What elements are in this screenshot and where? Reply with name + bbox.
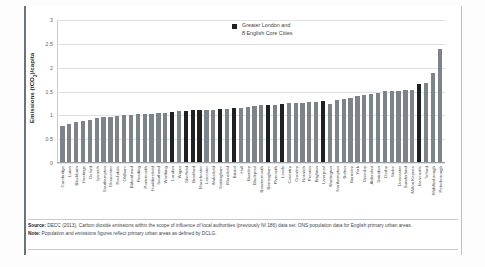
bar-item — [340, 20, 347, 162]
bar — [184, 111, 188, 162]
bar — [60, 126, 64, 162]
bar-item — [169, 20, 176, 162]
bar-item — [354, 20, 361, 162]
x-axis-label-text: Bradford — [190, 166, 195, 183]
x-axis-label: Warrington — [327, 165, 334, 217]
bar-item — [279, 20, 286, 162]
bar — [115, 116, 119, 162]
x-axis-label: Preston — [306, 165, 313, 217]
x-axis-label-text: Norwich — [300, 166, 305, 182]
x-axis-label-text: Brighton — [314, 166, 319, 182]
bar-item — [429, 20, 436, 162]
bar — [396, 91, 400, 162]
x-axis-label: Crawley — [292, 165, 299, 217]
bar-item — [320, 20, 327, 162]
bar-item — [86, 20, 93, 162]
y-axis-tick-label: 0 — [23, 160, 56, 166]
bar — [335, 100, 339, 162]
x-axis-label: Telford — [423, 165, 430, 217]
legend-swatch-core-cities — [232, 24, 237, 29]
bar — [307, 102, 311, 162]
bar-item — [395, 20, 402, 162]
bar — [225, 109, 229, 162]
x-axis-label-text: Newcastle — [417, 166, 422, 186]
y-axis-tick-label: 0.5 — [23, 136, 56, 142]
bar — [211, 110, 215, 162]
x-axis-label: Aldershot — [368, 165, 375, 217]
source-label: Source: — [28, 223, 46, 228]
bar — [348, 98, 352, 162]
bar-item — [368, 20, 375, 162]
bar — [156, 113, 160, 162]
x-axis-label-text: Derby — [382, 166, 387, 178]
bar-item — [299, 20, 306, 162]
x-axis-label: Rochdale — [114, 165, 121, 217]
x-axis-label: Middlesbrough — [429, 165, 436, 217]
x-axis-label: Liverpool — [320, 165, 327, 217]
bar — [300, 103, 304, 162]
legend: Greater London and 8 English Core Cities — [232, 22, 292, 37]
x-axis-label: Nottingham — [217, 165, 224, 217]
x-axis-label-text: Bournemouth — [259, 166, 264, 192]
bar — [204, 110, 208, 162]
x-axis-label: Luton — [66, 165, 73, 217]
x-axis-label: Blackpool — [251, 165, 258, 217]
bar — [163, 113, 167, 162]
bar-item — [402, 20, 409, 162]
x-axis-label-text: Warrington — [327, 166, 332, 187]
footnote-bottom-rule — [28, 249, 458, 250]
x-axis-label: Barnsley — [347, 165, 354, 217]
x-axis-label: Southampton — [100, 165, 107, 217]
bar — [266, 105, 270, 162]
x-axis-labels: CambridgeLutonBlackburnHastingsOxfordIps… — [57, 165, 445, 217]
x-axis-label-text: Wakefield — [211, 166, 216, 185]
bar — [95, 118, 99, 162]
x-axis-label-text: Barnsley — [348, 166, 353, 183]
x-axis-label: Newcastle — [416, 165, 423, 217]
x-axis-label-text: Rochdale — [115, 166, 120, 185]
x-axis-label-text: Leicester — [204, 166, 209, 184]
bar-item — [189, 20, 196, 162]
bar-item — [423, 20, 430, 162]
x-axis-label-text: Middlesbrough — [430, 166, 435, 195]
x-axis-label: Huddersfield — [148, 165, 155, 217]
bar — [424, 83, 428, 162]
bar-item — [230, 20, 237, 162]
bar — [239, 108, 243, 162]
bar-item — [244, 20, 251, 162]
x-axis-label: Grimsby — [361, 165, 368, 217]
x-axis-label-text: Plymouth — [273, 166, 278, 184]
x-axis-label: Burnley — [244, 165, 251, 217]
x-axis-label: Mansfield — [224, 165, 231, 217]
bar-item — [388, 20, 395, 162]
x-axis-label: Gloucester — [107, 165, 114, 217]
bar-item — [176, 20, 183, 162]
x-axis-label-text: Ipswich — [94, 166, 99, 181]
y-axis-tick-label: 1 — [23, 112, 56, 118]
bar-item — [292, 20, 299, 162]
bar — [369, 94, 373, 162]
x-axis-label-text: Sheffield — [183, 166, 188, 183]
x-axis-label-text: Reading — [135, 166, 140, 182]
bar-item — [100, 20, 107, 162]
x-axis-label-text: Gloucester — [108, 166, 113, 187]
bar — [81, 121, 85, 162]
x-axis-label-text: Grimsby — [362, 166, 367, 182]
x-axis-label: Sunderland — [402, 165, 409, 217]
x-axis-label: Wakefield — [210, 165, 217, 217]
x-axis-label: Leicester — [203, 165, 210, 217]
bar-item — [265, 20, 272, 162]
x-axis-label-text: Aldershot — [369, 166, 374, 185]
x-axis-label: Birmingham — [265, 165, 272, 217]
bar — [273, 105, 277, 162]
bar — [122, 115, 126, 162]
x-axis-label-text: Leeds — [279, 166, 284, 178]
x-axis-label: Sheffield — [182, 165, 189, 217]
x-axis-label: Reading — [134, 165, 141, 217]
x-axis-label-text: Luton — [67, 166, 72, 177]
note-label: Note: — [28, 231, 40, 236]
x-axis-label: Birkenhead — [128, 165, 135, 217]
x-axis-label-text: Birkenhead — [129, 166, 134, 188]
bar-item — [347, 20, 354, 162]
bar-item — [375, 20, 382, 162]
